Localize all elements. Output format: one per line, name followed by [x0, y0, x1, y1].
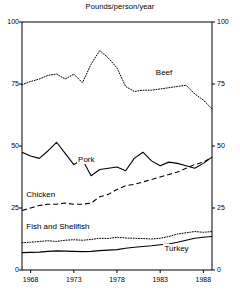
y-axis-tick-label-right: 50 — [217, 142, 225, 149]
y-axis-tick-label-right: 0 — [217, 266, 221, 273]
series-line-beef — [22, 51, 212, 109]
y-axis-tick-label-right: 25 — [217, 204, 225, 211]
chart-container: Pounds/person/year 002525505075751001001… — [0, 0, 240, 301]
series-label-fish-and-shellfish: Fish and Shellfish — [25, 222, 90, 231]
x-axis-tick-label: 1983 — [149, 276, 171, 283]
x-axis-tick-label: 1978 — [106, 276, 128, 283]
series-label-turkey: Turkey — [163, 244, 189, 253]
series-label-beef: Beef — [155, 68, 173, 77]
series-label-chicken: Chicken — [25, 190, 56, 199]
y-axis-tick-label-left: 25 — [2, 204, 19, 211]
y-axis-tick-label-left: 75 — [2, 80, 19, 87]
y-axis-tick-label-right: 100 — [217, 18, 229, 25]
series-line-pork — [22, 142, 212, 175]
y-axis-tick-label-left: 50 — [2, 142, 19, 149]
axis-frame — [22, 22, 212, 270]
x-axis-tick-label: 1973 — [63, 276, 85, 283]
y-axis-tick-label-left: 0 — [2, 266, 19, 273]
y-axis-tick-label-right: 75 — [217, 80, 225, 87]
chart-plot-area — [0, 0, 240, 301]
series-label-pork: Pork — [77, 155, 95, 164]
x-axis-tick-label: 1988 — [192, 276, 214, 283]
y-axis-tick-label-left: 100 — [2, 18, 19, 25]
x-axis-tick-label: 1968 — [20, 276, 42, 283]
